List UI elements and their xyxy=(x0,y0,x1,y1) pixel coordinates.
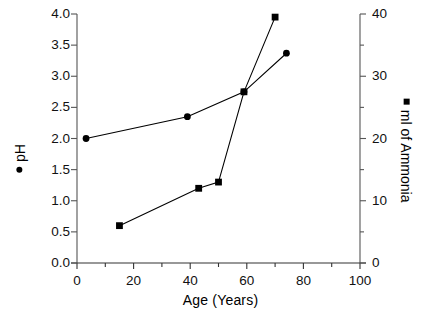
right-y-tick-label: 0 xyxy=(372,256,424,270)
data-point-square[interactable] xyxy=(215,179,222,186)
left-y-tick-label: 4.0 xyxy=(18,7,70,21)
x-axis-title: Age (Years) xyxy=(0,292,441,308)
data-point-square[interactable] xyxy=(272,14,279,21)
x-tick-label: 40 xyxy=(160,274,220,288)
data-point-circle[interactable] xyxy=(83,135,90,142)
left-y-tick-label: 3.5 xyxy=(18,38,70,52)
x-tick-label: 80 xyxy=(273,274,333,288)
right-y-tick-label: 40 xyxy=(372,7,424,21)
left-y-tick-label: 1.5 xyxy=(18,163,70,177)
left-y-tick-label: 2.0 xyxy=(18,132,70,146)
data-point-square[interactable] xyxy=(241,88,248,95)
left-y-tick-label: 1.0 xyxy=(18,194,70,208)
right-y-tick-label: 30 xyxy=(372,69,424,83)
data-point-square[interactable] xyxy=(116,222,123,229)
data-point-circle[interactable] xyxy=(283,50,290,57)
x-tick-label: 60 xyxy=(217,274,277,288)
right-axis-legend: ml of Ammonia xyxy=(398,66,415,236)
chart-figure: Age (Years) pH ml of Ammonia 02040608010… xyxy=(0,0,441,317)
data-point-square[interactable] xyxy=(195,185,202,192)
square-marker-icon xyxy=(403,99,409,105)
left-y-tick-label: 3.0 xyxy=(18,69,70,83)
series-line-left xyxy=(86,53,286,138)
x-tick-label: 100 xyxy=(330,274,390,288)
left-y-tick-label: 2.5 xyxy=(18,100,70,114)
x-tick-label: 0 xyxy=(47,274,107,288)
left-axis-legend-label: pH xyxy=(12,144,28,162)
series-line-right xyxy=(119,17,275,226)
right-y-tick-label: 20 xyxy=(372,132,424,146)
left-y-tick-label: 0.5 xyxy=(18,225,70,239)
left-y-tick-label: 0.0 xyxy=(18,256,70,270)
data-point-circle[interactable] xyxy=(184,113,191,120)
right-axis-legend-label: ml of Ammonia xyxy=(398,110,414,203)
right-y-tick-label: 10 xyxy=(372,194,424,208)
x-tick-label: 20 xyxy=(104,274,164,288)
